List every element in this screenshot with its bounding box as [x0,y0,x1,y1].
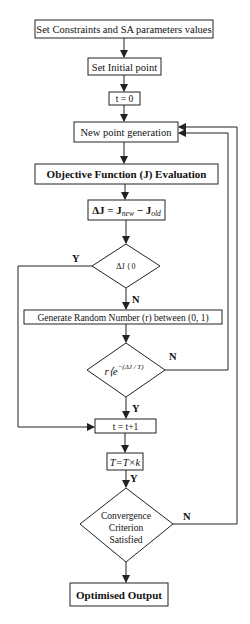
node-label: Set Constraints and SA parameters values [36,24,211,35]
flowchart-canvas: Set Constraints and SA parameters values… [0,0,250,624]
node-label: Set Initial point [92,62,157,73]
edge-label-yes: Y [132,403,140,414]
edge-yes-to-increment [18,266,94,427]
node-t-increment: t = t+1 [95,419,156,433]
decision-label-line: Convergence [101,511,151,521]
node-label: Generate Random Number (r) between (0, 1… [37,313,208,324]
node-temperature-update: T=T×k [107,453,143,470]
node-label: t = 0 [116,94,134,104]
edge-label-no: N [132,294,140,305]
node-label: Objective Function (J) Evaluation [47,168,207,181]
decision-label: ΔJ ⟨ 0 [116,262,135,271]
decision-convergence: Convergence Criterion Satisfied [80,488,173,562]
node-label: New point generation [81,127,173,138]
decision-delta-j-negative: ΔJ ⟨ 0 [92,244,160,288]
edge-label-no: N [183,511,191,522]
decision-label-line: Criterion [109,523,144,533]
node-generate-random-number: Generate Random Number (r) between (0, 1… [24,310,222,324]
node-label: t = t+1 [113,422,139,432]
edge-no-to-new-point [173,127,237,524]
decision-label-line: Satisfied [109,535,142,545]
node-new-point-generation: New point generation [74,122,178,142]
decision-acceptance-probability: r⟨e−(ΔJ / T) [87,343,165,397]
node-label: T=T×k [110,457,141,468]
node-optimised-output: Optimised Output [70,583,168,606]
node-objective-function-evaluation: Objective Function (J) Evaluation [35,164,218,184]
node-label: Optimised Output [76,589,162,601]
edge-label-yes: Y [72,253,80,264]
edge-label-no: N [169,351,177,362]
node-delta-j: ΔJ = Jnew − Jold [88,200,165,220]
node-set-initial-point: Set Initial point [88,58,161,75]
node-t-zero: t = 0 [109,92,140,105]
edge-label-yes: Y [130,473,138,484]
node-set-constraints: Set Constraints and SA parameters values [35,20,213,38]
